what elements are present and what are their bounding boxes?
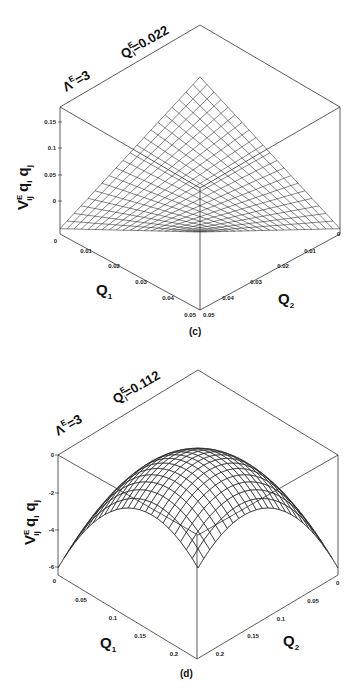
panel-d-y-axis: 0 0.05 0.1 0.15 0.2 (216, 580, 340, 657)
z-tick: 0 (53, 198, 57, 204)
panel-d-lambda-annotation: ΛE=3 (52, 410, 85, 438)
panel-c-z-label: VEij qi qj (14, 165, 34, 210)
z-tick: 0.05 (44, 172, 56, 178)
y-tick: 0.05 (203, 312, 215, 318)
panel-c-lambda-annotation: ΛE=3 (60, 66, 93, 94)
y-tick: 0.1 (277, 616, 286, 622)
panel-d-z-label: VEij qi qj (21, 500, 41, 545)
y-tick: 0.15 (247, 633, 259, 639)
x-tick: 0.04 (162, 295, 174, 301)
panel-d-surface-mesh (58, 448, 338, 568)
z-tick: 0 (51, 452, 55, 458)
panel-d-z-axis: 0 -2 -4 -6 (49, 452, 59, 570)
panel-c-label: (c) (189, 326, 201, 337)
panel-d-q-annotation: QEi=0.112 (110, 367, 164, 409)
panel-c-y-axis: 0 0.01 0.02 0.03 0.04 0.05 (203, 231, 341, 318)
z-tick: 0.1 (48, 145, 57, 151)
y-tick: 0.01 (304, 248, 316, 254)
x-tick: 0.01 (80, 248, 92, 254)
panel-c-box (60, 25, 340, 310)
panel-d-box (58, 370, 338, 659)
x-tick: 0.15 (134, 633, 146, 639)
y-tick: 0.02 (277, 263, 289, 269)
x-tick: 0.1 (109, 615, 118, 621)
x-tick: 0 (54, 238, 58, 244)
x-tick: 0 (53, 578, 57, 584)
y-tick: 0.2 (216, 651, 225, 657)
figure: 0.15 0.1 0.05 0 VEij qi qj 0 0.01 0.02 0… (0, 0, 360, 694)
x-tick: 0.03 (135, 279, 147, 285)
z-tick: 0.15 (44, 119, 56, 125)
panel-c-x-axis: 0 0.01 0.02 0.03 0.04 0.05 (54, 238, 197, 318)
panel-d-y-label: Q2 (283, 632, 300, 652)
panel-c-y-label: Q2 (278, 290, 295, 310)
z-tick: -2 (49, 490, 55, 496)
panel-c-x-label: Q1 (96, 281, 113, 301)
panel-d: 0 -2 -4 -6 VEij qi qj 0 0.05 0.1 0.15 0.… (21, 367, 340, 679)
y-tick: 0.04 (222, 295, 234, 301)
y-tick: 0.05 (307, 598, 319, 604)
z-tick: -6 (49, 564, 55, 570)
panel-d-x-label: Q1 (100, 634, 117, 654)
panel-c: 0.15 0.1 0.05 0 VEij qi qj 0 0.01 0.02 0… (14, 21, 341, 337)
panel-c-z-axis: 0.15 0.1 0.05 0 (44, 119, 62, 204)
y-tick: 0 (336, 580, 340, 586)
panel-d-label: (d) (180, 668, 193, 679)
y-tick: 0.03 (250, 279, 262, 285)
x-tick: 0.05 (75, 597, 87, 603)
x-tick: 0.2 (170, 651, 179, 657)
x-tick: 0.05 (184, 312, 196, 318)
z-tick: -4 (49, 527, 55, 533)
x-tick: 0.02 (108, 263, 120, 269)
